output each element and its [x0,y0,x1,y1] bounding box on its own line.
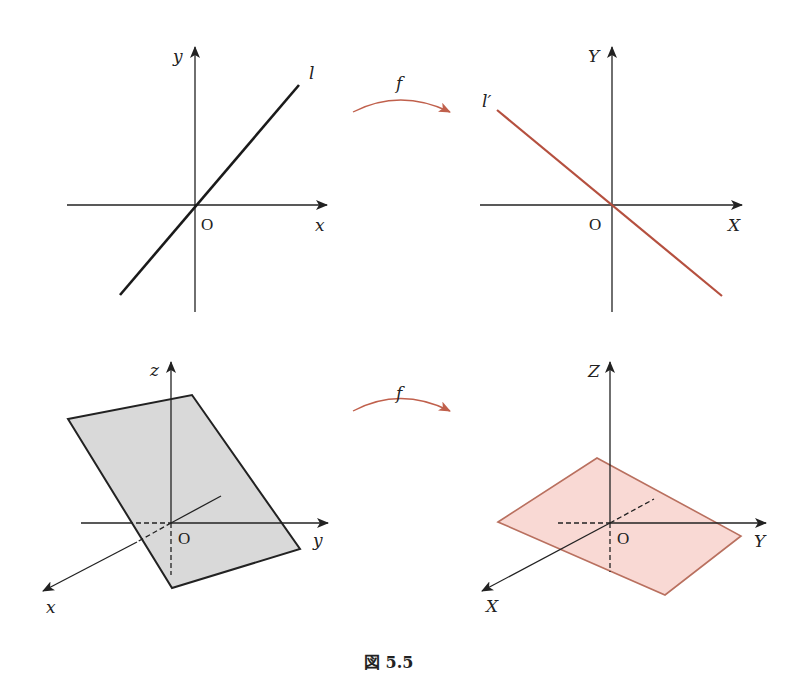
top-mapping-arrow: f [353,73,450,112]
line-l-label: l [309,63,314,83]
origin-label: O [178,529,190,548]
mapping-label: f [394,73,405,93]
X-axis-label: X [726,215,741,235]
Y-axis-label: Y [754,531,767,551]
line-l-prime-label: l′ [482,91,491,111]
y-axis-label: y [312,530,323,550]
pink-plane [498,458,741,595]
bottom-mapping-arrow: f [353,383,450,411]
origin-label: O [617,529,629,548]
origin-label: O [589,215,601,234]
x-axis-label: x [46,597,56,617]
bottom-left-panel: z O y x [43,360,328,617]
mapping-label: f [394,383,405,403]
line-l [120,85,299,295]
top-left-panel: y l O x [67,46,327,312]
origin-label: O [201,215,213,234]
Z-axis-label: Z [587,361,601,381]
curved-arrow-icon [353,100,450,112]
gray-plane [68,395,300,588]
bottom-right-panel: Z O Y X [482,361,767,616]
z-axis-label: z [149,360,160,380]
line-l-prime [497,110,722,296]
X-axis-label: X [484,596,499,616]
x-axis-label: x [315,215,325,235]
y-axis-label: y [172,46,183,66]
x-axis-front [43,542,137,591]
figure-caption: 図 5.5 [364,653,413,672]
top-right-panel: Y l′ O X [480,46,742,312]
figure-canvas: y l O x f Y l′ O X z O y x [0,0,798,682]
Y-axis-label: Y [588,46,601,66]
